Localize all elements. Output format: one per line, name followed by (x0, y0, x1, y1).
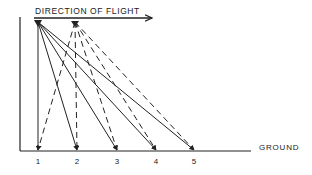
point-label-5: 5 (192, 157, 197, 166)
point-label-2: 2 (75, 157, 80, 166)
point-label-3: 3 (115, 157, 120, 166)
point-label-1: 1 (36, 157, 41, 166)
solid-rays (38, 22, 194, 150)
point-label-4: 4 (154, 157, 159, 166)
flight-direction-label: DIRECTION OF FLIGHT (35, 6, 140, 16)
ground-label: GROUND (259, 143, 299, 152)
flight-diagram: DIRECTION OF FLIGHT 1 2 3 4 5 GROUND (0, 0, 312, 175)
